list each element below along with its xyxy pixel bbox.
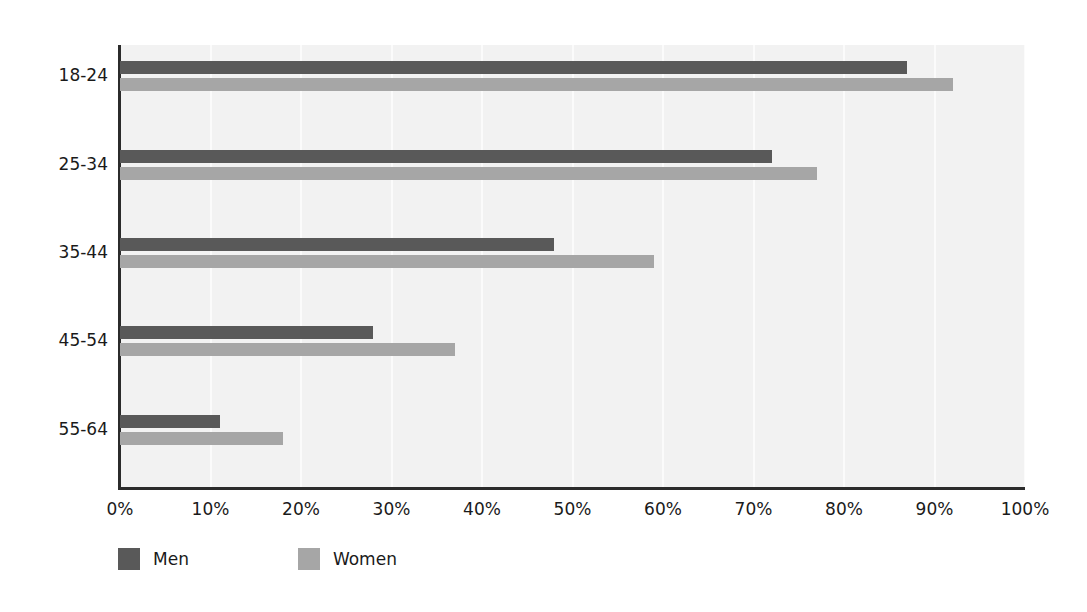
- category-label-45-54: 45-54: [0, 330, 108, 350]
- gridline: [1024, 45, 1025, 487]
- legend-item-men[interactable]: Men: [118, 548, 189, 570]
- bar-men-35-44: [120, 238, 554, 251]
- legend-label-men: Men: [153, 549, 189, 569]
- category-label-55-64: 55-64: [0, 419, 108, 439]
- bar-women-25-34: [120, 167, 817, 180]
- bar-women-18-24: [120, 78, 953, 91]
- gridline: [934, 45, 936, 487]
- legend-label-women: Women: [333, 549, 397, 569]
- legend-swatch-men-icon: [118, 548, 140, 570]
- legend-item-women[interactable]: Women: [298, 548, 397, 570]
- category-label-25-34: 25-34: [0, 154, 108, 174]
- x-tick-label-80%: 80%: [804, 499, 884, 519]
- x-tick-label-20%: 20%: [261, 499, 341, 519]
- category-label-18-24: 18-24: [0, 65, 108, 85]
- x-tick-label-90%: 90%: [895, 499, 975, 519]
- x-tick-label-50%: 50%: [533, 499, 613, 519]
- bar-chart: 18-2425-3435-4445-5455-64 0%10%20%30%40%…: [0, 0, 1087, 612]
- x-tick-label-100%: 100%: [985, 499, 1065, 519]
- x-tick-label-40%: 40%: [442, 499, 522, 519]
- x-tick-label-30%: 30%: [352, 499, 432, 519]
- x-tick-label-60%: 60%: [623, 499, 703, 519]
- bar-men-18-24: [120, 61, 907, 74]
- bar-men-25-34: [120, 150, 772, 163]
- bar-women-45-54: [120, 343, 455, 356]
- x-tick-label-0%: 0%: [80, 499, 160, 519]
- legend-swatch-women-icon: [298, 548, 320, 570]
- bar-women-35-44: [120, 255, 654, 268]
- x-axis-line: [118, 487, 1025, 490]
- gridline: [662, 45, 664, 487]
- bar-men-55-64: [120, 415, 220, 428]
- gridline: [843, 45, 845, 487]
- gridline: [753, 45, 755, 487]
- legend: Men Women: [118, 548, 397, 570]
- category-label-35-44: 35-44: [0, 242, 108, 262]
- bar-women-55-64: [120, 432, 283, 445]
- x-tick-label-70%: 70%: [714, 499, 794, 519]
- x-tick-label-10%: 10%: [171, 499, 251, 519]
- bar-men-45-54: [120, 326, 373, 339]
